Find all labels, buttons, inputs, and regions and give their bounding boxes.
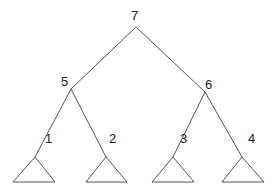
node-label-4: 4 (248, 131, 255, 146)
edge-7-6 (136, 27, 205, 92)
subtree-triangle-1 (13, 157, 55, 182)
edge-5-1 (35, 89, 71, 157)
tree-diagram: 7561234 (0, 0, 276, 191)
node-label-1: 1 (45, 131, 52, 146)
edge-5-2 (71, 89, 106, 157)
node-label-2: 2 (109, 131, 116, 146)
tree-edges (35, 27, 242, 157)
edge-6-4 (205, 92, 242, 157)
subtree-triangles (13, 157, 264, 182)
subtree-triangle-2 (86, 157, 127, 182)
node-label-7: 7 (131, 8, 138, 23)
subtree-triangle-3 (152, 157, 194, 182)
node-label-6: 6 (205, 77, 212, 92)
node-label-5: 5 (61, 74, 68, 89)
node-label-3: 3 (180, 131, 187, 146)
subtree-triangle-4 (222, 157, 264, 182)
edge-7-5 (71, 27, 136, 89)
edge-6-3 (173, 92, 205, 157)
